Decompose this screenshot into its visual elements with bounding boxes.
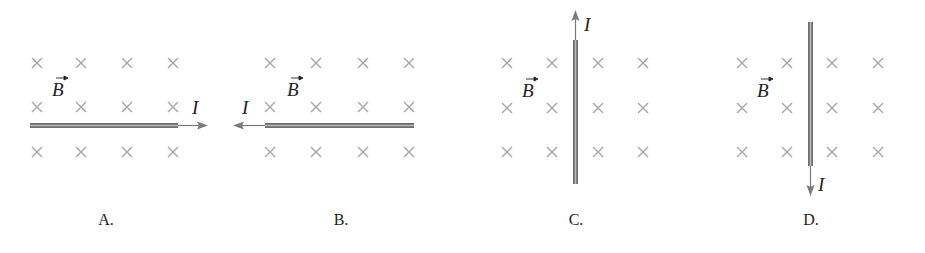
figure-canvas: I B I B (0, 0, 925, 253)
current-label: I (817, 174, 826, 195)
panel-a-caption: A. (98, 211, 114, 229)
panel-d-caption: D. (803, 211, 819, 229)
panel-c: I B (502, 10, 648, 184)
field-label-text: B (522, 80, 534, 101)
panel-c-caption: C. (569, 211, 584, 229)
field-label: B (52, 76, 68, 100)
field-label: B (287, 76, 303, 100)
panel-b-caption: B. (334, 211, 349, 229)
field-label-text: B (52, 79, 64, 100)
field-label-text: B (757, 80, 769, 101)
field-label: B (757, 77, 773, 101)
panel-a: I B (30, 58, 208, 157)
current-arrow-up-icon (572, 10, 580, 40)
field-label-text: B (287, 79, 299, 100)
magnetic-field-crosses (32, 58, 178, 157)
current-label: I (191, 97, 200, 118)
panel-b: I B (233, 58, 414, 157)
current-label: I (583, 14, 592, 35)
current-arrow-left-icon (233, 122, 265, 130)
current-arrow-right-icon (178, 122, 208, 130)
current-arrow-down-icon (807, 166, 815, 196)
field-label: B (522, 77, 538, 101)
magnetic-field-crosses (265, 58, 414, 157)
current-label: I (241, 97, 250, 118)
panel-d: I B (737, 22, 883, 196)
